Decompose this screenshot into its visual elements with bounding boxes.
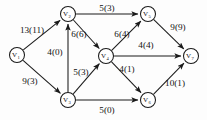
- node-v7[interactable]: V7: [184, 49, 199, 64]
- edge-label-v1-to-v3: 9(3): [22, 76, 37, 86]
- edge-label-v1-to-v2: 13(11): [20, 25, 44, 35]
- edge-label-v4-to-v5: 6(4): [114, 29, 129, 39]
- flow-network-diagram: V1V2V3V4V5V6V7 13(11)9(3)5(3)6(6)4(0)5(3…: [0, 0, 207, 120]
- node-v1[interactable]: V1: [10, 48, 25, 63]
- edge-label-v6-to-v7: 10(1): [165, 78, 185, 88]
- flow-network-canvas: V1V2V3V4V5V6V7 13(11)9(3)5(3)6(6)4(0)5(3…: [0, 0, 207, 120]
- node-v5[interactable]: V5: [141, 7, 156, 22]
- edge-label-v3-to-v6: 5(0): [99, 105, 114, 115]
- edge-label-v4-to-v7: 4(4): [138, 40, 153, 50]
- node-v6[interactable]: V6: [141, 93, 156, 108]
- node-v4[interactable]: V4: [99, 49, 114, 64]
- edge-label-v5-to-v7: 9(9): [170, 22, 185, 32]
- node-v3[interactable]: V3: [61, 93, 76, 108]
- edge-label-v4-to-v6: 4(1): [119, 64, 134, 74]
- edge-label-v2-to-v5: 5(3): [99, 3, 114, 13]
- edge-label-v2-to-v4: 6(6): [71, 29, 86, 39]
- node-v2[interactable]: V2: [61, 7, 76, 22]
- edge-label-v3-to-v2: 4(0): [47, 47, 62, 57]
- edge-label-v3-to-v4: 5(3): [73, 67, 88, 77]
